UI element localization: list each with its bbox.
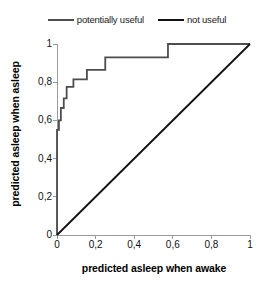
plot-area [57,44,250,235]
y-tick-label: 0,6 [18,115,52,125]
y-axis-title: predicted asleep when asleep [9,34,21,234]
roc-chart-figure: potentially useful not useful 1 0,8 0,6 … [0,0,274,290]
y-tick-label: 0,8 [18,77,52,87]
plot-svg [49,38,258,243]
y-tick-label: 1 [18,39,52,49]
legend-item-potentially-useful: potentially useful [48,15,144,25]
chart-legend: potentially useful not useful [0,11,274,29]
x-axis-title: predicted asleep when awake [40,262,268,274]
series-layer [57,44,250,235]
y-tick-label: 0,2 [18,192,52,202]
legend-label-not-useful: not useful [187,15,226,25]
y-tick-label: 0,4 [18,154,52,164]
legend-label-potentially-useful: potentially useful [77,15,144,25]
legend-item-not-useful: not useful [158,15,226,25]
legend-line-swatch-icon [48,19,74,21]
series-line-not-useful [57,44,250,235]
y-tick-label: 0 [18,230,52,240]
legend-line-swatch-icon [158,19,184,21]
